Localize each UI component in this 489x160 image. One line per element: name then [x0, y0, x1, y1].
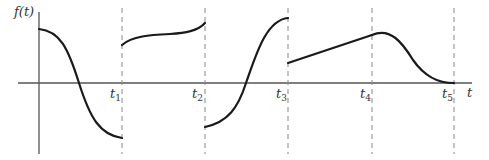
y-axis-label: f(t) — [13, 4, 34, 19]
t5-label: t5 — [442, 86, 453, 103]
segment-2 — [122, 23, 205, 45]
dashed-guides — [122, 8, 454, 154]
t2-label: t2 — [192, 86, 203, 103]
segment-4 — [288, 35, 372, 63]
piecewise-function-diagram: f(t) t t1 t2 t3 t4 t5 — [0, 0, 489, 160]
t3-label: t3 — [276, 86, 287, 103]
function-curve — [39, 18, 454, 138]
t1-label: t1 — [110, 86, 121, 103]
t4-label: t4 — [360, 86, 371, 103]
x-axis-label: t — [467, 85, 473, 100]
segment-3 — [205, 18, 288, 127]
segment-5 — [372, 33, 454, 83]
